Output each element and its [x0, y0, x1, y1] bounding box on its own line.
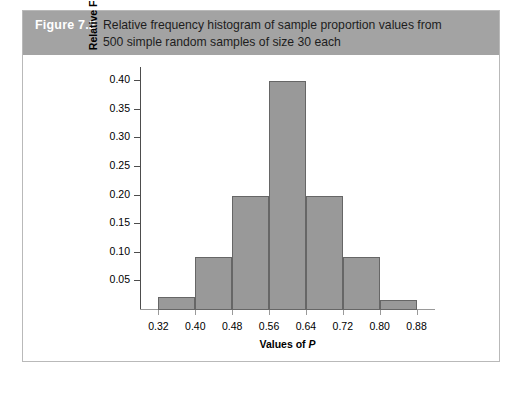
x-axis-title-variable: P: [309, 338, 316, 350]
x-axis-tick: 0.32: [158, 310, 159, 315]
x-axis-title-static: Values of: [259, 338, 308, 350]
x-axis-tick-label: 0.32: [148, 320, 168, 332]
plot-area: 0.050.100.150.200.250.300.350.40 0.320.4…: [140, 67, 435, 310]
y-axis-tick: 0.25: [134, 166, 140, 167]
x-axis-tick-label: 0.88: [406, 320, 426, 332]
x-axis-tick: 0.80: [380, 310, 381, 315]
x-axis-tick-label: 0.48: [222, 320, 242, 332]
histogram-bar: [232, 196, 269, 310]
y-axis-tick: 0.15: [134, 223, 140, 224]
histogram-bar: [158, 297, 195, 310]
y-axis-tick-label: 0.05: [110, 273, 130, 285]
histogram-bar: [306, 196, 343, 310]
y-axis-tick: 0.05: [134, 280, 140, 281]
y-axis-line: [140, 67, 141, 310]
x-axis-tick-label: 0.40: [185, 320, 205, 332]
x-axis-tick: 0.88: [417, 310, 418, 315]
y-axis-tick-label: 0.35: [110, 102, 130, 114]
y-axis-tick-label: 0.15: [110, 216, 130, 228]
x-axis-tick-label: 0.64: [296, 320, 316, 332]
x-axis-tick-label: 0.80: [369, 320, 389, 332]
figure-panel: Figure 7.2 Relative frequency histogram …: [22, 10, 500, 362]
x-axis-tick-label: 0.72: [333, 320, 353, 332]
y-axis-tick: 0.40: [134, 80, 140, 81]
x-axis-title: Values of P: [140, 338, 435, 350]
histogram-bar: [195, 257, 232, 310]
histogram-bar: [269, 81, 306, 310]
x-axis-tick: 0.40: [195, 310, 196, 315]
y-axis-tick-label: 0.25: [110, 159, 130, 171]
y-axis-tick: 0.10: [134, 252, 140, 253]
y-axis-tick-label: 0.30: [110, 130, 130, 142]
x-axis-tick-label: 0.56: [259, 320, 279, 332]
figure-caption-line-2: 500 simple random samples of size 30 eac…: [103, 34, 489, 51]
figure-caption-line-1: Relative frequency histogram of sample p…: [103, 17, 489, 34]
y-axis-tick-label: 0.20: [110, 188, 130, 200]
y-axis-tick: 0.35: [134, 109, 140, 110]
histogram-bar: [380, 300, 417, 310]
y-axis-tick-label: 0.10: [110, 245, 130, 257]
x-axis-tick: 0.48: [232, 310, 233, 315]
y-axis-tick-label: 0.40: [110, 73, 130, 85]
x-axis-tick: 0.64: [306, 310, 307, 315]
y-axis-tick: 0.20: [134, 195, 140, 196]
histogram-bar: [343, 257, 380, 310]
histogram-chart: Relative Frequency 0.050.100.150.200.250…: [23, 55, 499, 361]
x-axis-tick: 0.72: [343, 310, 344, 315]
figure-caption-text: Relative frequency histogram of sample p…: [103, 17, 489, 50]
x-axis-tick: 0.56: [269, 310, 270, 315]
y-axis-title: Relative Frequency: [87, 0, 99, 97]
y-axis-tick: 0.30: [134, 137, 140, 138]
